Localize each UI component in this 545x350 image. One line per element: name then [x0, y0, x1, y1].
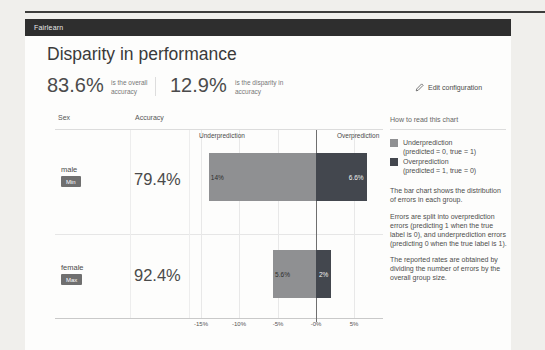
x-tick: -5%: [273, 321, 284, 327]
region-label-overprediction: Overprediction: [337, 132, 379, 139]
bar-label-female-under: 5.6%: [275, 271, 290, 278]
overall-accuracy-value: 83.6%: [47, 74, 104, 96]
bar-male-overprediction[interactable]: 6.6%: [316, 153, 367, 201]
min-badge: Min: [61, 176, 81, 187]
column-divider-sex-accuracy: [130, 130, 131, 318]
disparity-metric: 12.9%: [170, 74, 227, 97]
accuracy-value-male: 79.4%: [134, 170, 181, 189]
x-tick: -15%: [194, 321, 208, 327]
help-paragraph-3: The reported rates are obtained by divid…: [390, 255, 507, 282]
overprediction-swatch: [390, 158, 398, 166]
page-title: Disparity in performance: [47, 44, 237, 65]
legend-item-overprediction: Overprediction (predicted = 1, true = 0): [390, 157, 507, 175]
group-label-female: female: [61, 263, 84, 272]
accuracy-value-female: 92.4%: [134, 266, 181, 285]
gridline-minus15: [201, 130, 202, 318]
max-badge: Max: [61, 274, 82, 285]
legend-sub-under: (predicted = 0, true = 1): [403, 147, 476, 156]
bar-male-underprediction[interactable]: 14%: [209, 153, 316, 201]
disparity-caption: is the disparity in accuracy: [235, 79, 285, 97]
fairlearn-dashboard: Fairlearn Disparity in performance 83.6%…: [25, 19, 511, 350]
legend-sub-over: (predicted = 1, true = 0): [403, 166, 476, 175]
bar-female-overprediction[interactable]: 2%: [316, 250, 331, 298]
overall-accuracy-caption: is the overall accuracy: [111, 79, 153, 97]
disparity-value: 12.9%: [170, 74, 227, 96]
pencil-icon: [415, 83, 424, 92]
bar-label-male-under: 14%: [211, 174, 224, 181]
bar-chart-plot: Underprediction Overprediction 14% 6.6% …: [190, 130, 383, 318]
help-panel-title: How to read this chart: [390, 116, 458, 123]
x-tick: -0%: [311, 321, 322, 327]
help-paragraph-2: Errors are split into overprediction err…: [390, 212, 507, 248]
x-axis-ticks: -15% -10% -5% -0% 5%: [190, 321, 383, 331]
legend-item-underprediction: Underprediction (predicted = 0, true = 1…: [390, 138, 507, 156]
brand-fairlearn: Fairlearn: [34, 24, 63, 31]
x-axis-line: [55, 318, 383, 319]
metric-divider: [155, 77, 156, 96]
column-header-accuracy: Accuracy: [135, 114, 164, 121]
bar-label-male-over: 6.6%: [349, 174, 364, 181]
group-label-male: male: [61, 165, 77, 174]
app-top-bar: Fairlearn: [25, 19, 511, 36]
help-panel-divider: [390, 129, 506, 130]
help-paragraph-1: The bar chart shows the distribution of …: [390, 186, 507, 204]
region-label-underprediction: Underprediction: [199, 132, 245, 139]
bar-female-underprediction[interactable]: 5.6%: [273, 250, 316, 298]
x-tick: -10%: [232, 321, 246, 327]
bar-label-female-over: 2%: [319, 271, 328, 278]
legend-label-under: Underprediction: [403, 138, 476, 147]
column-header-sex: Sex: [58, 114, 70, 121]
underprediction-swatch: [390, 139, 398, 147]
edit-configuration-button[interactable]: Edit configuration: [413, 81, 484, 94]
legend-label-over: Overprediction: [403, 157, 476, 166]
overall-accuracy-metric: 83.6%: [47, 74, 104, 97]
scan-artifact-line: [25, 11, 545, 13]
edit-configuration-label: Edit configuration: [428, 84, 482, 91]
x-tick: 5%: [350, 321, 359, 327]
